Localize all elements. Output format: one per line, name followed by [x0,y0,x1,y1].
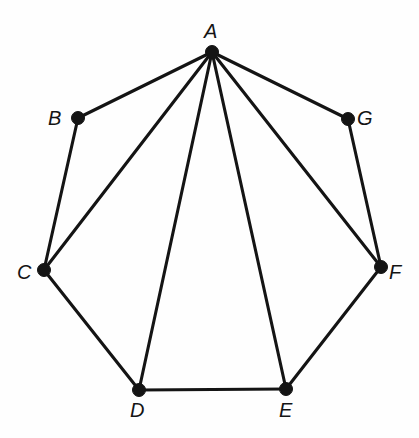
vertex-e [280,383,293,396]
edge-a-d [139,52,212,390]
edge-a-b [78,52,212,118]
graph-diagram: ABCDEFG [0,0,419,438]
vertex-g [342,113,355,126]
vertex-label-b: B [48,108,61,128]
vertex-d [133,384,146,397]
edge-d-e [139,389,286,390]
vertex-label-g: G [357,108,373,128]
edge-a-e [212,52,286,389]
vertex-label-a: A [204,21,217,41]
vertex-f [375,261,388,274]
vertex-b [72,112,85,125]
vertex-label-f: F [389,262,401,282]
edge-c-d [44,270,139,390]
vertex-label-e: E [279,400,292,420]
graph-canvas [0,0,419,438]
edge-a-g [212,52,348,119]
vertex-label-c: C [17,262,31,282]
vertices-group [38,46,388,397]
edges-group [44,52,381,390]
vertex-c [38,264,51,277]
vertex-a [206,46,219,59]
vertex-label-d: D [130,400,144,420]
edge-e-f [286,267,381,389]
